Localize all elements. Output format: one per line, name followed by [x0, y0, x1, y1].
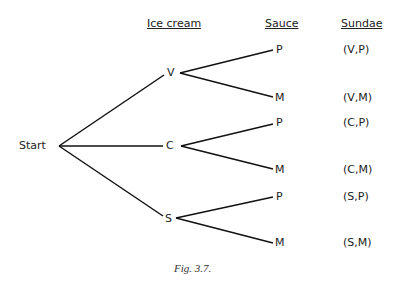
header-ice-cream: Ice cream — [147, 18, 201, 30]
node-sauce-p: P — [276, 44, 283, 56]
sundae-outcome: (S,M) — [343, 237, 372, 249]
sundae-outcome: (S,P) — [343, 191, 369, 203]
sundae-outcome: (C,M) — [343, 164, 372, 176]
node-sauce-m: M — [275, 237, 285, 249]
node-sauce-m: M — [275, 92, 285, 104]
header-sauce: Sauce — [265, 18, 299, 30]
tree-edges — [0, 0, 400, 287]
sundae-outcome: (C,P) — [343, 117, 369, 129]
node-start: Start — [19, 140, 46, 152]
node-sauce-p: P — [276, 191, 283, 203]
header-sundae: Sundae — [341, 18, 382, 30]
node-strawberry: S — [165, 213, 172, 225]
figure-caption: Fig. 3.7. — [174, 262, 211, 274]
node-sauce-p: P — [276, 117, 283, 129]
node-vanilla: V — [167, 67, 175, 79]
node-sauce-m: M — [275, 164, 285, 176]
sundae-outcome: (V,M) — [343, 92, 372, 104]
node-chocolate: C — [166, 140, 174, 152]
sundae-outcome: (V,P) — [343, 44, 369, 56]
